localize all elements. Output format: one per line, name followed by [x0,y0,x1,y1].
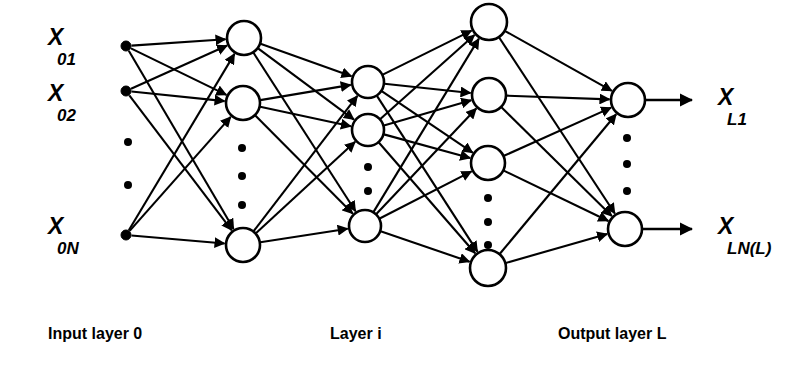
neuron-node [349,210,381,242]
connection-edge [499,37,615,213]
connection-edge [131,235,224,243]
input-label-3: X0N [48,215,79,257]
connection-edge [383,31,472,75]
connection-edge [384,84,470,93]
ellipsis-dot [238,201,246,209]
connection-edge [377,96,477,252]
connection-edge [506,234,607,263]
neuron-node [611,83,645,117]
output-label-2: XLN(L) [718,215,771,257]
connection-edge [505,31,612,91]
neuron-node [472,78,506,112]
connection-edge [131,48,226,94]
neuron-node [226,86,260,120]
neuron-node [471,4,507,40]
input-node-dot [121,86,131,96]
ellipsis-dot [238,144,246,152]
connection-edge [131,46,227,89]
input-label-1: X01 [48,26,76,68]
input-label-subscript: 02 [57,107,76,124]
connection-edge [384,134,470,158]
ellipsis-dot [484,218,492,226]
output-label-base: X [718,213,733,239]
input-node-dot [121,41,131,51]
nodes-group [121,4,645,286]
connection-edge [129,95,231,230]
output-label-subscript: L1 [727,111,747,128]
neuron-node [470,250,506,286]
input-label-base: X [48,213,63,239]
ellipsis-dot [623,134,631,142]
connection-edge [260,229,347,243]
output-label-base: X [718,84,733,110]
connection-edge [130,117,231,231]
connection-edge [131,39,225,45]
ellipsis-dot [238,172,246,180]
output-label-1: XL1 [718,86,747,128]
neuron-node [471,146,505,180]
input-label-2: X02 [48,82,76,124]
ellipsis-dot [364,163,372,171]
neural-network-diagram: X01X02X0NXL1XLN(L) Input layer 0Layer iO… [0,0,805,375]
connection-edge [374,39,479,212]
layer-caption-3: Output layer L [558,326,666,342]
neuron-node [608,212,642,246]
layer-caption-1: Input layer 0 [48,326,142,342]
connection-edge [380,35,474,119]
neuron-node [227,21,261,55]
layer-caption-2: Layer i [330,326,382,342]
ellipsis-dot [623,187,631,195]
neuron-node [226,228,260,262]
input-label-base: X [48,80,63,106]
input-label-subscript: 01 [57,51,76,68]
connection-edge [506,96,609,100]
output-label-subscript: LN(L) [727,240,771,257]
connection-edge [500,114,616,254]
ellipsis-dot [484,194,492,202]
input-label-base: X [48,24,63,50]
output-arrows-group [643,100,693,229]
ellipsis-dot [124,181,132,189]
ellipsis-dot [364,187,372,195]
ellipsis-dot [484,241,492,249]
neuron-node [352,66,384,98]
network-graphic [0,0,805,375]
input-label-subscript: 0N [57,240,79,257]
ellipsis-dot [623,160,631,168]
input-node-dot [121,230,131,240]
neuron-node [352,114,384,146]
ellipsis-dot [124,138,132,146]
connection-edge [504,108,611,156]
connection-edge [381,231,470,261]
connection-edge [260,85,350,100]
